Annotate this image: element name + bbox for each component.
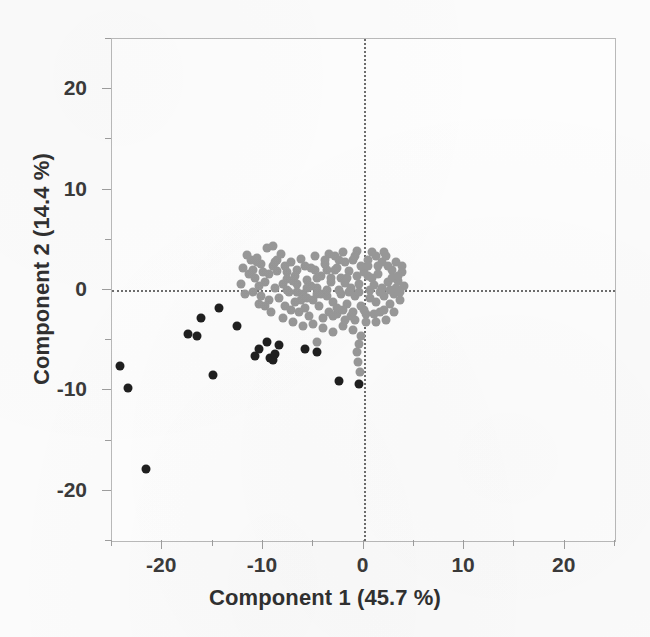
- data-point-grey: [258, 267, 267, 276]
- data-point-grey: [381, 316, 390, 325]
- data-point-black: [124, 384, 133, 393]
- x-tick-label: 20: [552, 553, 575, 577]
- data-point-black: [274, 341, 283, 350]
- y-tick-mark: [105, 339, 111, 340]
- data-point-black: [270, 350, 279, 359]
- data-point-grey: [293, 288, 302, 297]
- x-tick-mark: [161, 540, 162, 549]
- data-point-black: [262, 338, 271, 347]
- y-tick-label: -20: [57, 478, 87, 502]
- data-point-grey: [323, 265, 332, 274]
- data-point-grey: [383, 261, 392, 270]
- data-point-grey: [365, 286, 374, 295]
- y-tick-label: 0: [75, 277, 87, 301]
- data-point-grey: [393, 271, 402, 280]
- data-point-grey: [354, 358, 363, 367]
- data-point-grey: [356, 368, 365, 377]
- data-point-grey: [268, 241, 277, 250]
- data-point-grey: [371, 318, 380, 327]
- data-point-grey: [240, 290, 249, 299]
- data-point-grey: [379, 306, 388, 315]
- data-point-black: [196, 314, 205, 323]
- data-point-grey: [319, 324, 328, 333]
- data-point-black: [313, 348, 322, 357]
- data-point-grey: [329, 312, 338, 321]
- y-tick-mark: [105, 239, 111, 240]
- data-point-grey: [279, 314, 288, 323]
- y-tick-mark: [102, 389, 111, 390]
- data-point-grey: [321, 255, 330, 264]
- x-tick-mark: [363, 540, 364, 549]
- data-point-grey: [395, 288, 404, 297]
- data-point-grey: [363, 261, 372, 270]
- data-point-grey: [299, 322, 308, 331]
- data-point-black: [192, 332, 201, 341]
- x-tick-mark: [614, 540, 615, 546]
- y-tick-mark: [105, 138, 111, 139]
- data-point-grey: [373, 261, 382, 270]
- y-tick-mark: [105, 540, 111, 541]
- data-point-grey: [331, 251, 340, 260]
- data-point-grey: [335, 286, 344, 295]
- x-tick-label: 0: [357, 553, 369, 577]
- data-point-grey: [385, 286, 394, 295]
- plot-area: [111, 38, 616, 542]
- x-tick-mark: [312, 540, 313, 546]
- data-point-grey: [343, 273, 352, 282]
- y-tick-mark: [105, 440, 111, 441]
- data-point-grey: [244, 269, 253, 278]
- data-point-grey: [363, 271, 372, 280]
- y-tick-label: -10: [57, 377, 87, 401]
- data-point-grey: [277, 249, 286, 258]
- data-point-grey: [315, 302, 324, 311]
- data-point-grey: [260, 277, 269, 286]
- data-point-grey: [397, 261, 406, 270]
- data-point-grey: [283, 286, 292, 295]
- data-point-grey: [375, 288, 384, 297]
- y-tick-mark: [105, 38, 111, 39]
- y-tick-mark: [102, 289, 111, 290]
- data-point-grey: [303, 294, 312, 303]
- data-point-grey: [395, 296, 404, 305]
- data-point-grey: [327, 273, 336, 282]
- x-tick-mark: [413, 540, 414, 546]
- data-point-grey: [351, 251, 360, 260]
- data-point-grey: [341, 257, 350, 266]
- data-point-grey: [345, 288, 354, 297]
- data-point-grey: [351, 316, 360, 325]
- data-point-grey: [313, 338, 322, 347]
- y-tick-mark: [102, 88, 111, 89]
- y-tick-mark: [102, 490, 111, 491]
- data-point-black: [301, 345, 310, 354]
- data-point-grey: [339, 306, 348, 315]
- x-tick-mark: [564, 540, 565, 549]
- data-point-grey: [389, 308, 398, 317]
- x-tick-label: 10: [451, 553, 474, 577]
- data-point-black: [355, 380, 364, 389]
- data-point-grey: [313, 273, 322, 282]
- data-point-black: [254, 345, 263, 354]
- data-point-black: [142, 464, 151, 473]
- data-point-black: [116, 362, 125, 371]
- data-point-grey: [309, 320, 318, 329]
- data-point-grey: [353, 348, 362, 357]
- x-tick-mark: [212, 540, 213, 546]
- data-point-grey: [293, 279, 302, 288]
- data-point-grey: [236, 279, 245, 288]
- data-point-black: [214, 304, 223, 313]
- data-point-grey: [341, 316, 350, 325]
- data-point-black: [232, 322, 241, 331]
- data-point-grey: [371, 298, 380, 307]
- data-point-grey: [379, 247, 388, 256]
- data-point-grey: [353, 271, 362, 280]
- data-point-grey: [333, 263, 342, 272]
- pca-score-plot-figure: -20-100102020100-10-20 Component 1 (45.7…: [0, 0, 650, 637]
- data-point-grey: [359, 306, 368, 315]
- data-point-grey: [355, 288, 364, 297]
- data-point-grey: [287, 306, 296, 315]
- data-point-grey: [254, 300, 263, 309]
- data-point-grey: [311, 251, 320, 260]
- data-point-grey: [323, 286, 332, 295]
- y-tick-label: 10: [64, 177, 87, 201]
- data-point-grey: [289, 318, 298, 327]
